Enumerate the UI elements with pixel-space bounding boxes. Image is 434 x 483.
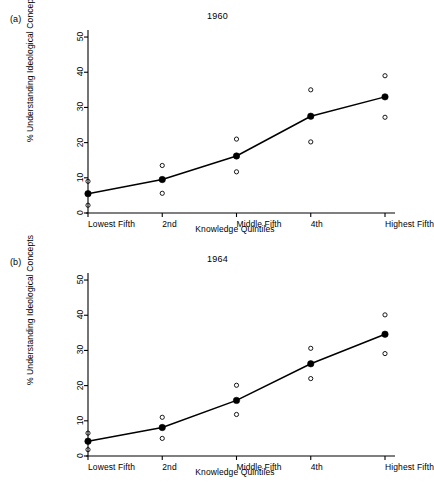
plot-svg-1960 [88,30,385,213]
y-tick-label: 40 [76,307,85,323]
panel-title-1964: 1964 [0,254,399,264]
y-tick-label: 20 [76,134,85,150]
chart-panel-1960: (a) 1960 % Understanding Ideological Con… [0,0,399,241]
y-tick-label: 30 [76,99,85,115]
plot-area-1960: 01020304050Lowest Fifth2ndMiddle Fifth4t… [88,30,385,213]
y-tick-label: 0 [76,205,85,221]
y-tick-label: 50 [76,29,85,45]
panel-title-1960: 1960 [0,11,399,21]
y-tick-label: 0 [76,448,85,464]
plot-area-1964: 01020304050Lowest Fifth2ndMiddle Fifth4t… [88,273,385,456]
y-axis-label: % Understanding Ideological Concepts [25,0,35,143]
y-tick-label: 50 [76,272,85,288]
y-axis-label: % Understanding Ideological Concepts [25,234,35,386]
y-tick-label: 10 [76,169,85,185]
y-tick-label: 20 [76,377,85,393]
chart-panel-1964: (b) 1964 % Understanding Ideological Con… [0,243,399,483]
plot-svg-1964 [88,273,385,456]
y-tick-label: 40 [76,64,85,80]
y-tick-label: 10 [76,412,85,428]
y-tick-label: 30 [76,342,85,358]
